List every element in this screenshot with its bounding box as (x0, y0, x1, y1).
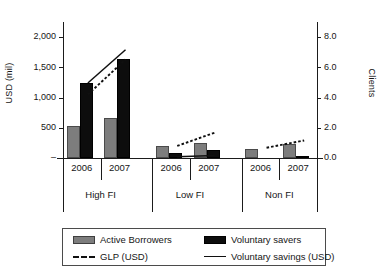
y-ticklabel-left-2: 1,000 (33, 93, 56, 102)
plot-area: – 500 1,000 1,500 2,000 0.0 2.0 4.0 6.0 … (63, 22, 317, 158)
x-group-label-high-fi: High FI (63, 189, 138, 200)
y-ticklabel-left-3: 1,500 (33, 63, 56, 72)
glp-line-group-0 (88, 59, 126, 94)
legend-item-active-borrowers: Active Borrowers (73, 231, 172, 248)
y-ticklabel-right-3: 6.0 (324, 63, 337, 72)
x-tick-label-non-fi-2006: 2006 (242, 162, 280, 173)
legend-label-glp: GLP (USD) (100, 251, 148, 262)
y-tick-right-4 (317, 37, 321, 38)
y-ticklabel-right-1: 2.0 (324, 123, 337, 132)
y-axis-left-title: USD (mil) (4, 48, 14, 118)
x-tick-label-high-fi-2007: 2007 (101, 162, 139, 173)
y-ticklabel-left-4: 2,000 (33, 32, 56, 41)
glp-line-group-2 (267, 140, 305, 147)
chart-legend: Active Borrowers Voluntary savers GLP (U… (62, 228, 326, 266)
black-bar-swatch-icon (204, 236, 226, 244)
gray-bar-swatch-icon (73, 236, 95, 244)
category-axis: 20062007High FI20062007Low FI20062007Non… (57, 158, 323, 212)
glp-line-group-1 (177, 133, 215, 146)
legend-item-voluntary-savings: Voluntary savings (USD) (204, 248, 334, 265)
y-tick-right-1 (317, 128, 321, 129)
dashed-line-swatch-icon (73, 256, 95, 258)
y-tick-right-3 (317, 67, 321, 68)
x-tick-label-low-fi-2006: 2006 (152, 162, 190, 173)
x-tick-label-low-fi-2007: 2007 (190, 162, 228, 173)
y-ticklabel-right-4: 8.0 (324, 32, 337, 41)
legend-item-voluntary-savers: Voluntary savers (204, 231, 301, 248)
x-tick-label-high-fi-2006: 2006 (63, 162, 101, 173)
legend-label-voluntary-savings: Voluntary savings (USD) (231, 251, 334, 262)
legend-item-glp: GLP (USD) (73, 248, 148, 265)
y-axis-right-line (317, 22, 318, 158)
x-group-label-non-fi: Non FI (242, 189, 317, 200)
y-ticklabel-right-2: 4.0 (324, 93, 337, 102)
legend-label-voluntary-savers: Voluntary savers (231, 234, 301, 245)
voluntary-savings-line-group-1 (177, 156, 215, 157)
y-ticklabel-right-0: 0.0 (324, 153, 337, 162)
legend-row-2: GLP (USD) Voluntary savings (USD) (63, 248, 325, 265)
solid-line-swatch-icon (204, 256, 226, 257)
y-ticklabel-left-1: 500 (41, 123, 56, 132)
x-tick-label-non-fi-2007: 2007 (279, 162, 317, 173)
legend-label-active-borrowers: Active Borrowers (100, 234, 172, 245)
y-axis-right-title: Clients (367, 48, 377, 118)
category-separator-major-3 (317, 158, 318, 212)
chart-figure: USD (mil) Clients – 500 1,000 1,500 2,00… (0, 0, 384, 277)
x-group-label-low-fi: Low FI (152, 189, 227, 200)
y-ticklabel-left-0: – (51, 153, 56, 162)
legend-row-1: Active Borrowers Voluntary savers (63, 231, 325, 248)
line-series-layer (63, 22, 317, 158)
y-tick-right-2 (317, 98, 321, 99)
